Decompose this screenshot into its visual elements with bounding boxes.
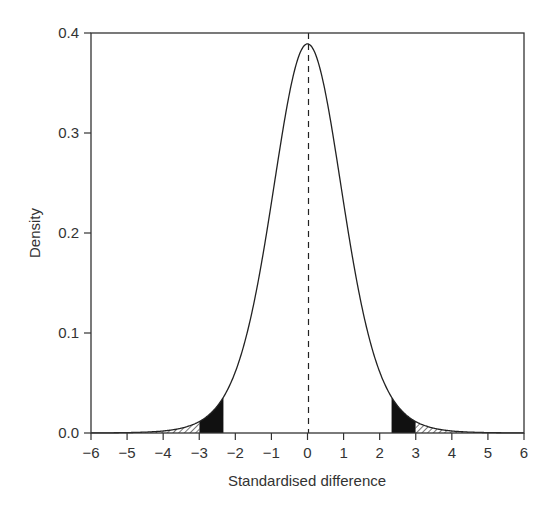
x-tick-label: 1	[339, 444, 347, 461]
density-curve	[91, 44, 524, 433]
x-tick-label: 3	[412, 444, 420, 461]
shaded-regions	[145, 397, 470, 433]
x-tick-label: 0	[303, 444, 311, 461]
x-tick-label: −3	[191, 444, 208, 461]
x-axis-title: Standardised difference	[228, 472, 386, 489]
x-tick-label: 5	[484, 444, 492, 461]
x-tick-label: −1	[263, 444, 280, 461]
y-tick-label: 0.0	[58, 424, 79, 441]
density-chart: −6−5−4−3−2−10123456 0.00.10.20.30.4 Stan…	[0, 0, 554, 508]
y-axis-ticks: 0.00.10.20.30.4	[58, 24, 91, 441]
x-tick-label: −6	[82, 444, 99, 461]
x-tick-label: 4	[448, 444, 456, 461]
y-tick-label: 0.1	[58, 324, 79, 341]
y-tick-label: 0.3	[58, 124, 79, 141]
y-tick-label: 0.4	[58, 24, 79, 41]
x-tick-label: −4	[155, 444, 172, 461]
x-tick-label: −2	[227, 444, 244, 461]
plot-frame	[91, 33, 524, 433]
y-axis-title: Density	[26, 207, 43, 258]
x-axis-ticks: −6−5−4−3−2−10123456	[82, 433, 528, 461]
x-tick-label: 6	[520, 444, 528, 461]
x-tick-label: −5	[119, 444, 136, 461]
x-tick-label: 2	[375, 444, 383, 461]
y-tick-label: 0.2	[58, 224, 79, 241]
